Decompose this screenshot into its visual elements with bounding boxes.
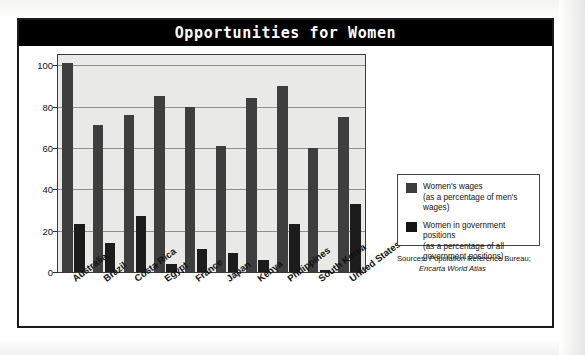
bar <box>62 63 73 272</box>
bar-group <box>308 55 331 272</box>
sources-line-1: Sources: Population Reference Bureau; <box>397 254 531 263</box>
bar <box>277 86 288 272</box>
bar <box>154 96 165 272</box>
y-tick-label-40: 40 <box>19 184 53 195</box>
legend-sublabel-wages: (as a percentage of men's wages) <box>423 193 532 214</box>
bar-group <box>216 55 239 272</box>
bar-group <box>154 55 177 272</box>
y-tick-label-20: 20 <box>19 225 53 236</box>
bar <box>338 117 349 272</box>
legend-swatch-wages <box>406 183 417 193</box>
y-tick-label-0: 0 <box>19 267 53 278</box>
x-axis-labels: AustraliaBrazilCosta RicaEgyptFranceJapa… <box>57 275 377 330</box>
page-title: Opportunities for Women <box>175 24 397 42</box>
legend-swatch-government <box>406 222 417 232</box>
sources-line-2: Encarta World Atlas <box>397 264 557 274</box>
bar-group <box>246 55 269 272</box>
bar <box>136 216 147 272</box>
plot-area <box>57 54 366 273</box>
bar-group <box>185 55 208 272</box>
chart-legend: Women's wages (as a percentage of men's … <box>397 174 540 246</box>
y-tick-label-100: 100 <box>19 60 53 71</box>
bar-group <box>338 55 361 272</box>
y-axis-ticks: 020406080100 <box>19 54 53 273</box>
bar <box>350 204 361 272</box>
sources-note: Sources: Population Reference Bureau; En… <box>397 254 557 274</box>
legend-title-government: Women in government positions <box>423 221 505 241</box>
legend-label-wages: Women's wages (as a percentage of men's … <box>423 182 532 214</box>
bar-group <box>124 55 147 272</box>
bar <box>185 107 196 272</box>
scan-artifact-right <box>559 0 585 355</box>
bar <box>216 146 227 272</box>
bar-group <box>277 55 300 272</box>
y-tick-label-80: 80 <box>19 101 53 112</box>
scan-artifact-top <box>0 0 585 18</box>
chart-title-banner: Opportunities for Women <box>19 20 552 46</box>
legend-item-wages: Women's wages (as a percentage of men's … <box>406 182 532 214</box>
scan-artifact-bottom <box>0 339 585 355</box>
legend-title-wages: Women's wages <box>423 182 483 191</box>
bar-series-container <box>58 55 365 272</box>
bar <box>124 115 135 272</box>
chart-body: Percent 020406080100 AustraliaBrazilCost… <box>19 46 552 330</box>
bar <box>246 98 257 272</box>
bar-group <box>93 55 116 272</box>
chart-card: Opportunities for Women Percent 02040608… <box>17 18 554 328</box>
y-tick-label-60: 60 <box>19 143 53 154</box>
bar-group <box>62 55 85 272</box>
